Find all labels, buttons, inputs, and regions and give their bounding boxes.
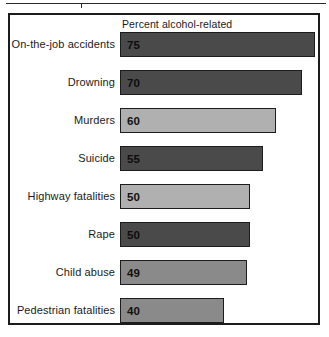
bar-row: Child abuse49 <box>10 260 318 298</box>
bar-value-label: 70 <box>121 77 140 89</box>
bar: 55 <box>120 146 263 171</box>
bar-rows: On-the-job accidents75Drowning70Murders6… <box>10 32 318 336</box>
bar: 40 <box>120 298 224 323</box>
bar-value-label: 49 <box>121 267 140 279</box>
bar-row: Pedestrian fatalities40 <box>10 298 318 336</box>
bar-row: Drowning70 <box>10 70 318 108</box>
bar-category-label: Murders <box>74 114 115 126</box>
bar-category-label: Rape <box>88 228 115 240</box>
chart-header-label: Percent alcohol-related <box>122 18 232 30</box>
bar-category-label: Child abuse <box>56 266 115 278</box>
bar: 70 <box>120 70 302 95</box>
bar-row: Murders60 <box>10 108 318 146</box>
bar-row: Suicide55 <box>10 146 318 184</box>
bar-category-label: Suicide <box>78 152 115 164</box>
bar-category-label: Highway fatalities <box>28 190 115 202</box>
bar: 50 <box>120 222 250 247</box>
bar-category-label: On-the-job accidents <box>12 38 116 50</box>
bar-value-label: 75 <box>121 39 140 51</box>
bar-value-label: 60 <box>121 115 140 127</box>
page-rule-top <box>6 3 326 4</box>
bar: 60 <box>120 108 276 133</box>
bar-value-label: 40 <box>121 305 140 317</box>
page-rule-tick <box>81 3 82 8</box>
bar: 75 <box>120 32 315 57</box>
bar: 49 <box>120 260 247 285</box>
chart-frame: Percent alcohol-related On-the-job accid… <box>8 13 320 325</box>
bar-value-label: 50 <box>121 191 140 203</box>
bar-row: Rape50 <box>10 222 318 260</box>
bar-category-label: Drowning <box>68 76 115 88</box>
bar-value-label: 55 <box>121 153 140 165</box>
bar: 50 <box>120 184 250 209</box>
bar-value-label: 50 <box>121 229 140 241</box>
bar-category-label: Pedestrian fatalities <box>17 304 115 316</box>
bar-row: On-the-job accidents75 <box>10 32 318 70</box>
bar-row: Highway fatalities50 <box>10 184 318 222</box>
